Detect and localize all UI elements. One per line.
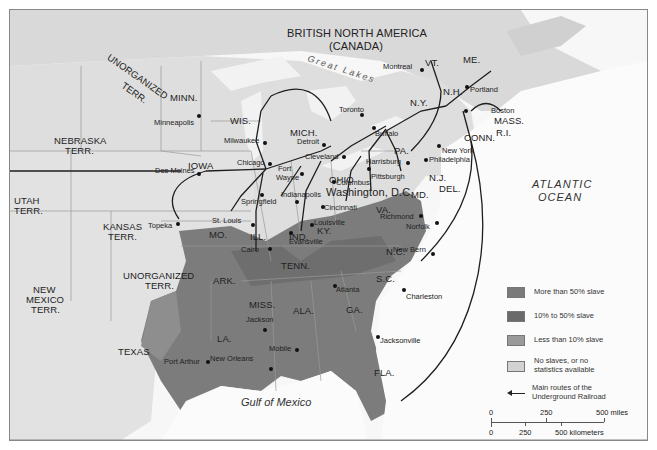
city-buffalo: Buffalo <box>375 130 398 138</box>
legend-item-less-than-10: Less than 10% slave <box>507 330 647 351</box>
scale-miles-500: 500 miles <box>596 409 628 417</box>
label-kansas-terr-2: TERR. <box>108 232 137 242</box>
label-mass: MASS. <box>494 116 524 126</box>
city-fort-wayne-2: Wayne <box>276 174 299 182</box>
label-nebraska-terr-2: TERR. <box>65 146 94 156</box>
label-british-north-america: BRITISH NORTH AMERICA <box>287 28 427 39</box>
label-atlantic: ATLANTIC <box>532 179 592 190</box>
city-cairo: Cairo <box>241 246 259 254</box>
legend-item-more-than-50: More than 50% slave <box>507 282 647 303</box>
arrow-left-icon <box>507 389 525 398</box>
city-evansville: Evansville <box>289 238 323 246</box>
city-cleveland: Cleveland <box>305 153 338 161</box>
label-nh: N.H. <box>443 87 462 97</box>
city-springfield: Springfield <box>241 198 276 206</box>
label-la: LA. <box>217 334 232 344</box>
label-tenn: TENN. <box>281 261 310 271</box>
legend: More than 50% slave 10% to 50% slave Les… <box>507 282 647 408</box>
label-new-mexico-terr-3: TERR. <box>31 305 60 315</box>
city-port-arthur: Port Arthur <box>164 358 200 366</box>
scale-miles-0: 0 <box>489 409 493 417</box>
city-new-york: New York <box>442 147 474 155</box>
city-des-moines: Des Moines <box>155 167 195 175</box>
label-pa: PA. <box>394 146 409 156</box>
city-fort-wayne: Fort <box>278 165 291 173</box>
label-ark: ARK. <box>213 276 236 286</box>
city-jacksonville: Jacksonville <box>380 337 420 345</box>
legend-item-routes: Main routes of the Underground Railroad <box>507 381 647 405</box>
city-toronto: Toronto <box>339 106 364 114</box>
label-vt: VT. <box>425 58 439 68</box>
city-montreal: Montreal <box>383 63 412 71</box>
label-texas: TEXAS <box>118 347 150 357</box>
city-pittsburgh: Pittsburgh <box>371 173 405 181</box>
legend-swatch-icon <box>507 287 525 298</box>
city-portland: Portland <box>470 86 498 94</box>
city-detroit: Detroit <box>297 138 319 146</box>
label-minn: MINN. <box>170 93 197 103</box>
legend-item-no-slaves: No slaves, or no statistics available <box>507 354 647 378</box>
city-washington-dc: Washington, D.C. <box>326 187 413 198</box>
label-del: DEL. <box>439 184 461 194</box>
label-mo: MO. <box>209 230 227 240</box>
city-harrisburg: Harrisburg <box>366 158 401 166</box>
city-charleston: Charleston <box>406 293 442 301</box>
city-philadelphia: Philadelphia <box>429 156 470 164</box>
city-milwaukee: Milwaukee <box>224 137 259 145</box>
label-md: MD. <box>411 190 429 200</box>
city-richmond: Richmond <box>380 213 414 221</box>
label-fla: FLA. <box>374 368 394 378</box>
city-new-bern: New Bern <box>393 246 426 254</box>
city-cincinnati: Cincinnati <box>324 204 357 212</box>
label-sc: S.C. <box>376 274 395 284</box>
label-nj: N.J. <box>429 173 446 183</box>
label-ill: ILL. <box>250 232 266 242</box>
label-gulf-of-mexico: Gulf of Mexico <box>241 397 311 408</box>
scale-km-500: 500 kilometers <box>555 429 604 437</box>
legend-item-10-to-50: 10% to 50% slave <box>507 306 647 327</box>
label-unorganized-terr-south-2: TERR. <box>145 281 174 291</box>
city-louisville: Louisville <box>314 219 345 227</box>
legend-swatch-icon <box>507 311 525 322</box>
scale-bar: 0 250 500 miles 0 250 500 kilometers <box>488 408 638 438</box>
city-atlanta: Atlanta <box>336 286 359 294</box>
city-new-orleans: New Orleans <box>210 355 253 363</box>
city-jackson: Jackson <box>246 316 274 324</box>
scale-km-250: 250 <box>519 429 532 437</box>
city-boston: Boston <box>491 107 514 115</box>
legend-swatch-icon <box>507 335 525 346</box>
scale-miles-250: 250 <box>540 409 553 417</box>
city-indianapolis: Indianapolis <box>281 191 321 199</box>
label-miss: MISS. <box>249 300 275 310</box>
label-ri: R.I. <box>496 128 511 138</box>
label-ga: GA. <box>346 305 363 315</box>
city-mobile: Mobile <box>269 345 291 353</box>
scale-km-0: 0 <box>489 429 493 437</box>
label-conn: CONN. <box>464 133 495 143</box>
label-ocean: OCEAN <box>538 192 582 203</box>
label-utah-terr-2: TERR. <box>14 206 43 216</box>
city-norfolk: Norfolk <box>406 223 430 231</box>
city-minneapolis: Minneapolis <box>154 119 194 127</box>
legend-swatch-icon <box>507 361 525 372</box>
label-canada: (CANADA) <box>329 41 383 52</box>
underground-railroad-map: BRITISH NORTH AMERICA (CANADA) Great Lak… <box>9 9 648 441</box>
city-chicago: Chicago <box>237 159 265 167</box>
label-ala: ALA. <box>293 306 314 316</box>
label-wis: WIS. <box>230 116 251 126</box>
city-topeka: Topeka <box>148 222 172 230</box>
city-st-louis: St. Louis <box>212 217 241 225</box>
label-ky: KY. <box>317 226 331 236</box>
label-ny: N.Y. <box>410 98 428 108</box>
label-me: ME. <box>463 55 480 65</box>
